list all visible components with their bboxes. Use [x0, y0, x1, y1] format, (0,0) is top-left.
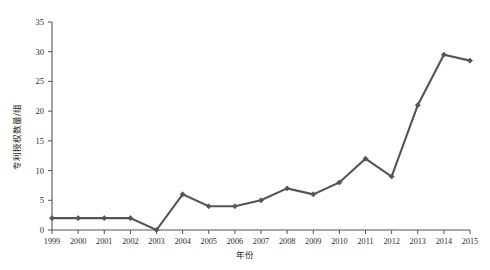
x-tick-label: 2010	[331, 237, 347, 246]
y-tick-label: 0	[40, 225, 44, 235]
x-tick-label: 2003	[148, 237, 164, 246]
x-axis-title-label: 年份	[236, 250, 254, 260]
y-tick-label: 30	[36, 47, 45, 57]
x-tick-label: 2005	[201, 237, 217, 246]
x-tick-label: 2004	[174, 237, 190, 246]
x-tick-label: 2006	[227, 237, 243, 246]
y-tick-label: 35	[36, 17, 45, 27]
data-point-marker	[76, 216, 81, 221]
series-markers	[49, 52, 472, 233]
data-point-marker	[467, 58, 472, 63]
x-tick-label: 2011	[357, 237, 373, 246]
y-tick-label: 5	[40, 195, 44, 205]
x-axis: 1999200020012002200320042005200620072008…	[44, 230, 478, 260]
data-point-marker	[232, 204, 237, 209]
y-axis-title-label: 专利授权数量/组	[12, 104, 22, 170]
x-tick-label: 2013	[410, 237, 426, 246]
x-axis-ticks: 1999200020012002200320042005200620072008…	[44, 230, 478, 246]
y-axis: 05101520253035 专利授权数量/组	[12, 17, 52, 235]
y-tick-label: 25	[36, 76, 45, 86]
x-tick-label: 2012	[383, 237, 399, 246]
x-tick-label: 2002	[122, 237, 138, 246]
x-tick-label: 2007	[253, 237, 269, 246]
y-tick-label: 10	[36, 166, 45, 176]
data-point-marker	[102, 216, 107, 221]
x-tick-label: 2001	[96, 237, 112, 246]
y-axis-ticks: 05101520253035	[36, 17, 53, 235]
x-tick-label: 2000	[70, 237, 86, 246]
data-point-marker	[49, 216, 54, 221]
x-tick-label: 2009	[305, 237, 321, 246]
patent-grant-line-chart: 05101520253035 专利授权数量/组 1999200020012002…	[0, 0, 490, 270]
y-tick-label: 20	[36, 106, 45, 116]
y-tick-label: 15	[36, 136, 45, 146]
series-line-patent-grants	[52, 55, 470, 230]
data-series	[49, 52, 472, 233]
x-tick-label: 2014	[436, 237, 452, 246]
x-tick-label: 2015	[462, 237, 478, 246]
x-tick-label: 2008	[279, 237, 295, 246]
y-axis-title: 专利授权数量/组	[12, 104, 22, 170]
x-tick-label: 1999	[44, 237, 60, 246]
chart-plot-area: 05101520253035 专利授权数量/组 1999200020012002…	[0, 0, 490, 270]
